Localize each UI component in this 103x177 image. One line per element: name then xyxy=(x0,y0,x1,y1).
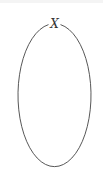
node-label-x: X xyxy=(49,17,59,31)
ellipse-outline xyxy=(18,25,91,167)
diagram-canvas: X xyxy=(0,0,103,177)
